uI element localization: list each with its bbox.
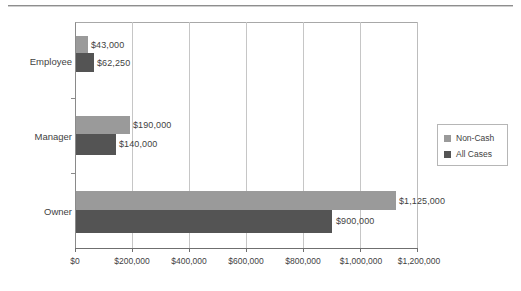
xtick-mark-200000	[132, 248, 133, 252]
bar-manager-all-cases	[76, 134, 116, 155]
legend-swatch-all-cases-icon	[444, 151, 451, 158]
xtick-mark-800000	[303, 248, 304, 252]
xtick-label-1000000: $1,000,000	[340, 256, 383, 266]
legend-label-all-cases: All Cases	[456, 149, 492, 159]
xtick-label-600000: $600,000	[228, 256, 263, 266]
xtick-label-0: $0	[70, 256, 79, 266]
xtick-label-400000: $400,000	[171, 256, 206, 266]
xtick-mark-1000000	[360, 248, 361, 252]
category-label-manager: Manager	[0, 131, 72, 142]
legend-label-non-cash: Non-Cash	[456, 133, 494, 143]
bar-chart-figure: Employee $43,000 $62,250 Manager $190,00…	[0, 0, 521, 291]
data-label-employee-non-cash: $43,000	[91, 40, 124, 50]
ytick-mark-manager-owner	[71, 173, 76, 174]
gridline-1000000	[360, 22, 361, 248]
data-label-owner-non-cash: $1,125,000	[399, 196, 445, 206]
bar-employee-non-cash	[76, 36, 88, 53]
bar-manager-non-cash	[76, 116, 130, 134]
xtick-mark-0	[75, 248, 76, 252]
bar-owner-all-cases	[76, 210, 332, 233]
data-label-manager-all-cases: $140,000	[119, 139, 157, 149]
data-label-owner-all-cases: $900,000	[336, 216, 374, 226]
data-label-employee-all-cases: $62,250	[97, 58, 130, 68]
bar-owner-non-cash	[76, 191, 396, 210]
xtick-label-800000: $800,000	[285, 256, 320, 266]
xtick-mark-400000	[189, 248, 190, 252]
xtick-mark-600000	[246, 248, 247, 252]
category-label-employee: Employee	[0, 56, 72, 67]
legend-swatch-non-cash-icon	[444, 135, 451, 142]
chart-legend: Non-Cash All Cases	[437, 124, 508, 166]
xtick-label-1200000: $1,200,000	[398, 256, 441, 266]
plot-right-border	[417, 22, 418, 249]
header-divider	[8, 5, 513, 7]
ytick-mark-employee-manager	[71, 98, 76, 99]
xtick-mark-1200000	[417, 248, 418, 252]
bar-employee-all-cases	[76, 53, 94, 72]
legend-entry-non-cash: Non-Cash	[444, 133, 494, 143]
category-label-owner: Owner	[0, 206, 72, 217]
xtick-label-200000: $200,000	[114, 256, 149, 266]
data-label-manager-non-cash: $190,000	[133, 120, 171, 130]
legend-entry-all-cases: All Cases	[444, 149, 492, 159]
